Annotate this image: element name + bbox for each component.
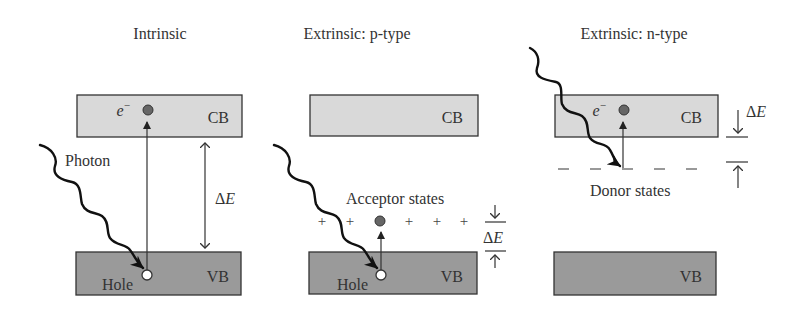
vb-label: VB [441, 268, 463, 285]
hole-label: Hole [102, 276, 133, 293]
acceptor-plus-icon: + [460, 213, 468, 229]
vb-label: VB [680, 268, 702, 285]
panel-title-p-type: Extrinsic: p-type [303, 25, 410, 43]
cb-label: CB [681, 109, 702, 126]
band-gap-label: ΔE [215, 190, 235, 207]
hole-icon [142, 270, 152, 280]
hole-label: Hole [337, 276, 368, 293]
panel-p-type: Extrinsic: p-type CB VB Acceptor states … [274, 25, 506, 294]
hole-icon [376, 270, 386, 280]
cb-label: CB [442, 109, 463, 126]
band-gap-label: ΔE [746, 103, 766, 120]
donor-states-label: Donor states [590, 182, 670, 199]
panel-intrinsic: Intrinsic CB VB e− Hole Photon ΔE [40, 25, 242, 295]
band-diagram-canvas: Intrinsic CB VB e− Hole Photon ΔE Extrin… [0, 0, 804, 313]
electron-icon [143, 105, 153, 115]
acceptor-plus-icon: + [318, 213, 326, 229]
panel-n-type: Extrinsic: n-type CB VB Donor states e− … [530, 25, 766, 295]
acceptor-states-label: Acceptor states [346, 190, 444, 208]
acceptor-plus-icon: + [346, 213, 354, 229]
band-gap-label: ΔE [483, 229, 503, 246]
photon-label: Photon [65, 152, 110, 169]
vb-label: VB [207, 268, 229, 285]
acceptor-plus-icon: + [433, 213, 441, 229]
panel-title-n-type: Extrinsic: n-type [580, 25, 687, 43]
electron-icon [375, 216, 385, 226]
panel-title-intrinsic: Intrinsic [133, 25, 186, 42]
cb-label: CB [208, 109, 229, 126]
acceptor-plus-icon: + [405, 213, 413, 229]
electron-icon [619, 105, 629, 115]
